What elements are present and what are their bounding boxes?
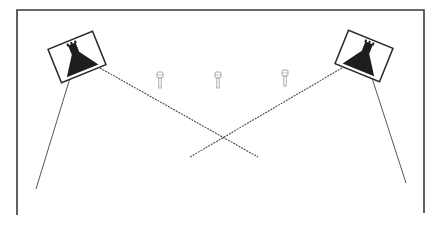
beam-left-down — [36, 78, 70, 189]
beam-left-cross — [100, 68, 258, 157]
microphone-icon — [215, 72, 221, 88]
fixture-right-icon — [335, 30, 393, 81]
beam-right-cross — [190, 68, 342, 157]
microphone-icon — [282, 70, 288, 86]
room-diagram — [0, 0, 442, 229]
microphone-icon — [157, 72, 163, 88]
fixture-left-icon — [48, 31, 106, 82]
beam-right-down — [372, 78, 406, 183]
